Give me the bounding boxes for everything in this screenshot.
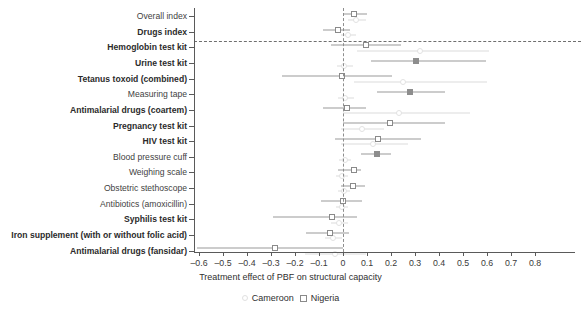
y-axis-line [194,8,195,252]
confidence-interval-cameroon [354,81,487,82]
estimate-marker-nigeria [351,11,357,17]
confidence-interval-nigeria [282,76,392,77]
estimate-marker-cameroon [345,32,351,38]
legend-label-nigeria: Nigeria [311,293,340,303]
x-axis-tick [223,252,224,256]
square-open-icon [300,295,307,302]
x-axis-ticklabel: –0.3 [262,258,279,268]
estimate-marker-cameroon [417,48,423,54]
estimate-marker-nigeria [327,230,333,236]
x-axis-ticklabel: 0.2 [385,258,397,268]
x-axis-ticklabel: 0 [341,258,346,268]
estimate-marker-cameroon [330,235,336,241]
confidence-interval-cameroon [357,50,489,51]
forest-plot-figure: Overall indexDrugs indexHemoglobin test … [0,0,581,316]
estimate-marker-nigeria [407,89,413,95]
x-axis-ticklabel: –0.5 [214,258,231,268]
x-axis-ticklabel: –0.6 [190,258,207,268]
estimate-marker-cameroon [400,79,406,85]
confidence-interval-nigeria [197,248,343,249]
x-axis-ticklabel: 0.3 [409,258,421,268]
x-axis-ticklabel: –0.2 [286,258,303,268]
x-axis-title: Treatment effect of PBF on structural ca… [0,272,581,282]
x-axis-ticklabel: 0.6 [481,258,493,268]
confidence-interval-cameroon [343,113,470,114]
x-axis-ticklabel: 0.4 [433,258,445,268]
confidence-interval-nigeria [343,123,445,124]
estimate-marker-cameroon [370,141,376,147]
legend-label-cameroon: Cameroon [252,293,294,303]
estimate-marker-cameroon [359,126,365,132]
x-axis-tick [391,252,392,256]
index-separator-line [194,41,581,42]
estimate-marker-cameroon [336,220,342,226]
estimate-marker-nigeria [413,58,419,64]
x-axis-tick [295,252,296,256]
estimate-marker-cameroon [396,110,402,116]
estimate-marker-nigeria [335,27,341,33]
estimate-marker-nigeria [350,183,356,189]
estimate-marker-nigeria [351,167,357,173]
x-axis-tick [343,252,344,256]
estimate-marker-nigeria [272,245,278,251]
x-axis-tick [535,252,536,256]
circle-open-icon [242,295,248,301]
x-axis-ticklabel: –0.1 [310,258,327,268]
x-axis-tick [487,252,488,256]
estimate-marker-nigeria [375,136,381,142]
x-axis-tick [439,252,440,256]
x-axis-tick [511,252,512,256]
x-axis-ticklabel: 0.1 [361,258,373,268]
x-axis-tick [271,252,272,256]
estimate-marker-nigeria [329,214,335,220]
estimate-marker-nigeria [374,151,380,157]
confidence-interval-nigeria [371,60,486,61]
legend-item-nigeria: Nigeria [300,293,340,303]
x-axis-tick [199,252,200,256]
x-axis-ticklabel: 0.7 [505,258,517,268]
x-axis-ticklabel: 0.5 [457,258,469,268]
confidence-interval-nigeria [338,170,361,171]
legend-item-cameroon: Cameroon [242,293,294,303]
plot-area [0,0,581,316]
x-axis-tick [247,252,248,256]
estimate-marker-cameroon [353,17,359,23]
zero-reference-line [343,8,344,252]
estimate-marker-nigeria [344,105,350,111]
x-axis-ticklabel: –0.4 [238,258,255,268]
x-axis-ticklabel: 0.8 [529,258,541,268]
x-axis-tick [319,252,320,256]
legend: Cameroon Nigeria [0,293,581,303]
x-axis-tick [367,252,368,256]
estimate-marker-nigeria [387,120,393,126]
x-axis-tick [463,252,464,256]
estimate-marker-nigeria [363,42,369,48]
x-axis-tick [415,252,416,256]
confidence-interval-nigeria [273,216,357,217]
x-axis-line [194,252,575,253]
